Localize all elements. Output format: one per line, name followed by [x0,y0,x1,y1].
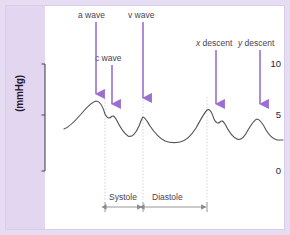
guide-lines [105,97,207,200]
phase-spans [105,202,207,212]
y-axis [42,64,46,171]
jvp-trace [64,101,283,143]
annotation-arrows [96,22,260,104]
jvp-waveform-figure: (mmHg) 10 5 0 a wave v wave c wave x des… [0,0,290,235]
figure-overlay [0,0,290,235]
